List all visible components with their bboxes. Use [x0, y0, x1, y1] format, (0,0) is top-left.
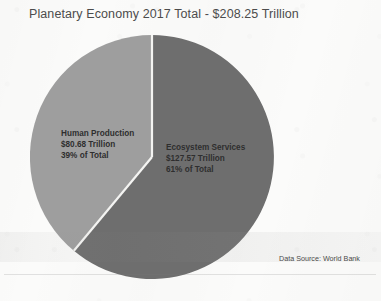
slice-label-ecosystem-services-name: Ecosystem Services [166, 142, 245, 153]
slice-label-ecosystem-services-value: $127.57 Trillion [166, 153, 245, 164]
slice-label-human-production: Human Production $80.68 Trillion 39% of … [61, 128, 134, 162]
slice-label-human-production-value: $80.68 Trillion [61, 139, 134, 150]
slice-label-human-production-name: Human Production [61, 128, 134, 139]
slice-label-ecosystem-services-percent: 61% of Total [166, 164, 245, 175]
data-source-note: Data Source: World Bank [279, 254, 360, 263]
slice-label-ecosystem-services: Ecosystem Services $127.57 Trillion 61% … [166, 142, 245, 176]
slice-label-human-production-percent: 39% of Total [61, 150, 134, 161]
chart-page: Planetary Economy 2017 Total - $208.25 T… [0, 0, 381, 301]
chart-bottom-border [4, 274, 376, 275]
